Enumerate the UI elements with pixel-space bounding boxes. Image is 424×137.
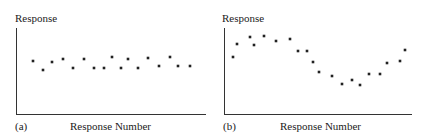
data-points-b <box>232 35 407 87</box>
data-point <box>386 62 389 65</box>
data-point <box>263 35 266 38</box>
data-point <box>359 84 362 87</box>
data-point <box>275 40 278 43</box>
data-point <box>399 60 402 63</box>
data-point <box>236 43 239 46</box>
data-point <box>341 83 344 86</box>
data-point <box>351 79 354 82</box>
data-point <box>312 61 315 64</box>
data-point <box>297 50 300 53</box>
panel-label-b: (b) <box>223 120 236 132</box>
data-point <box>379 73 382 76</box>
data-point <box>306 50 309 53</box>
data-point <box>289 38 292 41</box>
plot-area-b <box>0 0 424 137</box>
data-point <box>404 49 407 52</box>
x-axis-label-b: Response Number <box>280 120 361 132</box>
data-point <box>253 44 256 47</box>
chart-panel-b: Response (b) Response Number <box>0 0 424 137</box>
data-point <box>318 71 321 74</box>
data-point <box>368 73 371 76</box>
data-point <box>331 75 334 78</box>
data-point <box>249 36 252 39</box>
data-point <box>232 56 235 59</box>
